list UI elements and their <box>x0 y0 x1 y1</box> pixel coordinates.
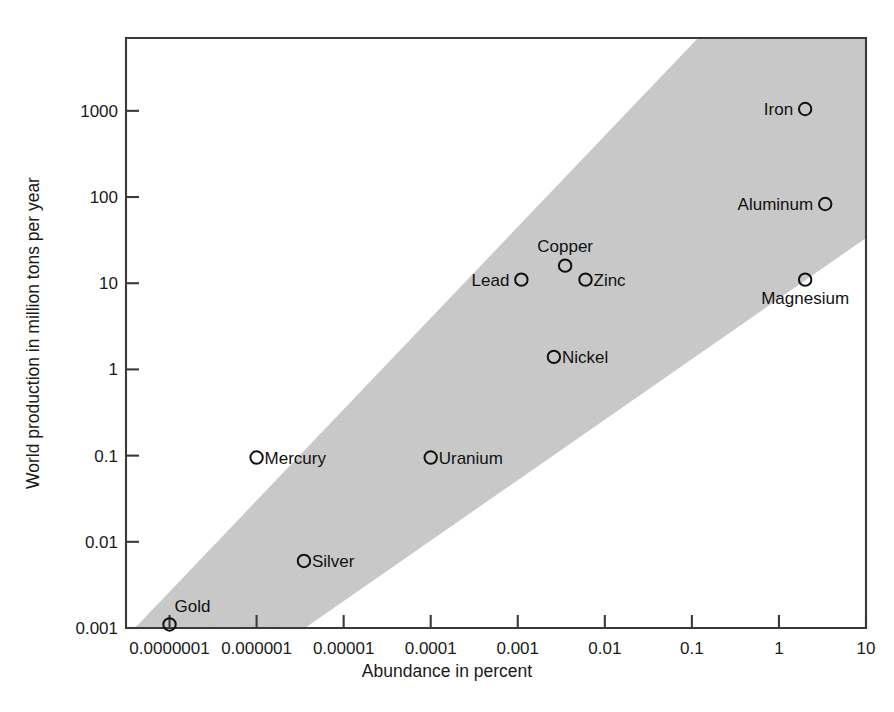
data-point-label: Mercury <box>265 449 326 466</box>
x-tick-label: 10 <box>857 640 876 657</box>
data-point-label: Magnesium <box>761 290 849 307</box>
y-tick-label: 10 <box>99 275 118 292</box>
data-point-label: Nickel <box>562 348 608 365</box>
chart-figure: 0.00000010.0000010.000010.00010.0010.010… <box>0 0 894 712</box>
x-tick-label: 0.0001 <box>405 640 457 657</box>
data-point-label: Silver <box>312 552 355 569</box>
x-tick-label: 1 <box>774 640 783 657</box>
y-axis-title: World production in million tons per yea… <box>25 177 43 489</box>
data-point-label: Aluminum <box>738 196 814 213</box>
data-point-label: Copper <box>537 238 593 255</box>
x-tick-label: 0.0000001 <box>129 640 209 657</box>
data-point-label: Lead <box>472 271 510 288</box>
y-tick-label: 1 <box>109 361 118 378</box>
plot-canvas <box>0 0 894 712</box>
x-axis-title: Abundance in percent <box>362 663 532 681</box>
data-point-label: Zinc <box>594 271 626 288</box>
x-tick-label: 0.01 <box>588 640 621 657</box>
x-tick-label: 0.000001 <box>221 640 292 657</box>
y-tick-label: 0.1 <box>94 447 118 464</box>
data-point-label: Iron <box>764 101 793 118</box>
x-tick-label: 0.1 <box>680 640 704 657</box>
y-tick-label: 0.01 <box>85 533 118 550</box>
data-point-label: Gold <box>175 598 211 615</box>
data-point-label: Uranium <box>439 449 503 466</box>
x-tick-label: 0.00001 <box>313 640 374 657</box>
y-tick-label: 1000 <box>80 102 118 119</box>
y-tick-label: 100 <box>90 189 118 206</box>
y-tick-label: 0.001 <box>75 620 118 637</box>
x-tick-label: 0.001 <box>496 640 539 657</box>
